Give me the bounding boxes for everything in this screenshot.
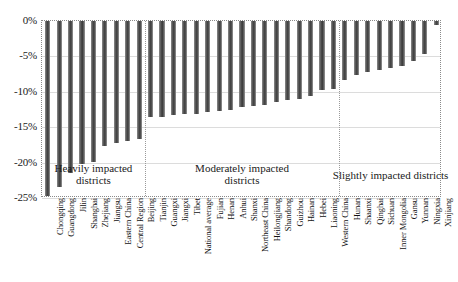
bar [308,21,313,96]
x-axis-tick-label: Tibet [193,198,202,282]
x-axis-tick-label: Shandong [284,198,293,282]
y-axis-tick-label: -25% [0,192,37,203]
x-axis-tick-label: Tianjin [159,198,168,282]
x-axis-tick-label: Central Region [136,198,145,282]
bar [434,21,439,25]
bar [182,21,187,114]
bar [228,21,233,110]
bar [68,21,73,173]
x-axis-tick-label: Shanxi [250,198,259,282]
x-axis-tick-label: Western China [341,198,350,282]
bar [91,21,96,162]
bar [297,21,302,99]
x-axis-tick-label: Anhui [239,198,248,282]
x-axis-tick-label: Shanghai [90,198,99,282]
bar [137,21,142,139]
x-axis-tick-label: Liaoning [330,198,339,282]
x-axis-tick-label: Eastern China [124,198,133,282]
bar [239,21,244,107]
bar [251,21,256,106]
bar [217,21,222,111]
x-axis-tick-label: National average [204,198,213,282]
bar [114,21,119,143]
x-axis-tick-label: Heilongjiang [273,198,282,282]
bar [365,21,370,72]
bar [285,21,290,100]
x-axis-tick-label: Zhejiang [101,198,110,282]
bar [388,21,393,68]
y-axis-tick-label: 0% [0,15,37,26]
plot-area: Heavily impacted districts Moderately im… [41,20,441,197]
bar [45,21,50,196]
bar [274,21,279,102]
x-axis-tick-label: Fujian [216,198,225,282]
bar [354,21,359,75]
x-axis-tick-label: Beijing [147,198,156,282]
bar [79,21,84,164]
x-axis-tick-label: Gansu [410,198,419,282]
bar [205,21,210,112]
bar-series [42,21,440,196]
x-axis-tick-label: Jilin [79,198,88,282]
bar [262,21,267,105]
y-axis-tick-label: -10% [0,85,37,96]
x-axis-tick-label: Guizhou [296,198,305,282]
x-axis-category-labels: ChongqingGuangdongJilinShanghaiZhejiangJ… [41,198,441,282]
x-axis-tick-label: Henan [227,198,236,282]
bar [377,21,382,70]
bar [57,21,62,187]
bar [411,21,416,61]
bar [319,21,324,90]
x-axis-tick-label: Yunnan [421,198,430,282]
x-axis-tick-label: Northeast China [261,198,270,282]
x-axis-tick-label: Jiangxi [181,198,190,282]
bar [194,21,199,114]
x-axis-tick-label: Hainan [307,198,316,282]
bar [422,21,427,54]
x-axis-tick-label: Shaanxi [364,198,373,282]
x-axis-tick-label: Sichuan [387,198,396,282]
x-axis-tick-label: Chongqing [56,198,65,282]
bar [125,21,130,141]
bar [331,21,336,89]
x-axis-tick-label: Jiangsu [113,198,122,282]
x-axis-tick-label: Ningxia [433,198,442,282]
x-axis-tick-label: Qinghai [376,198,385,282]
y-axis-tick-label: -20% [0,156,37,167]
bar [102,21,107,146]
bar [342,21,347,80]
x-axis-tick-label: Xinjiang [444,198,453,282]
y-axis-tick-label: -15% [0,121,37,132]
x-axis-tick-label: Guangxi [170,198,179,282]
bar [159,21,164,117]
bar [171,21,176,115]
bar [399,21,404,66]
x-axis-tick-label: Guangdong [67,198,76,282]
x-axis-tick-label: Hebei [319,198,328,282]
bar [148,21,153,117]
y-axis-tick-label: -5% [0,50,37,61]
x-axis-tick-label: Inner Mongolia [399,198,408,282]
x-axis-tick-label: Hunan [353,198,362,282]
